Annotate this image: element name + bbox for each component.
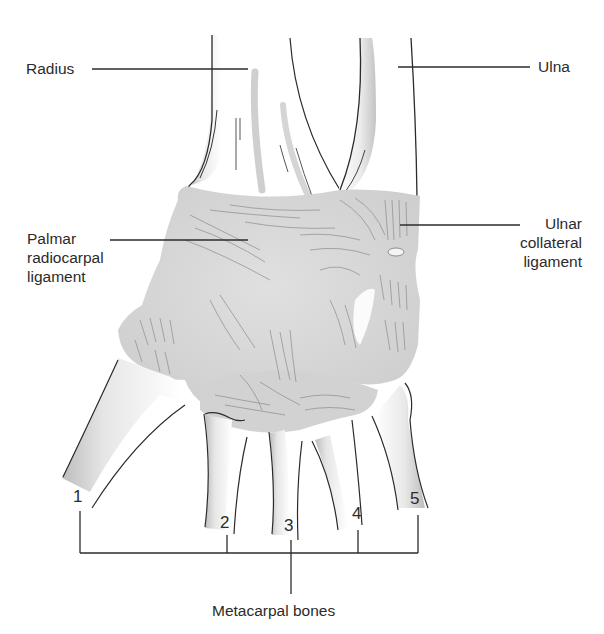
metacarpal-1 bbox=[62, 358, 185, 508]
metacarpal-bones-label: Metacarpal bones bbox=[212, 601, 335, 620]
ulnar-collateral-ligament-label: Ulnar collateral ligament bbox=[520, 214, 582, 271]
label-line: radiocarpal bbox=[27, 248, 104, 267]
metacarpal-number-2: 2 bbox=[220, 514, 229, 532]
label-line: ligament bbox=[27, 267, 104, 286]
ulna-label: Ulna bbox=[538, 57, 570, 76]
label-line: Ulnar bbox=[520, 214, 582, 233]
metacarpal-5 bbox=[372, 383, 428, 510]
radius-bone bbox=[178, 35, 342, 215]
label-line: Palmar bbox=[27, 229, 104, 248]
palmar-radiocarpal-ligament-label: Palmar radiocarpal ligament bbox=[27, 229, 104, 286]
metacarpal-bracket bbox=[80, 511, 418, 594]
metacarpal-number-1: 1 bbox=[73, 488, 82, 506]
label-line: ligament bbox=[520, 252, 582, 271]
label-line: collateral bbox=[520, 233, 582, 252]
metacarpal-number-3: 3 bbox=[284, 517, 293, 535]
ulna-bone bbox=[338, 38, 417, 198]
radius-label: Radius bbox=[26, 59, 74, 78]
wrist-illustration bbox=[0, 0, 604, 634]
metacarpal-number-5: 5 bbox=[410, 490, 419, 508]
metacarpal-number-4: 4 bbox=[352, 505, 361, 523]
